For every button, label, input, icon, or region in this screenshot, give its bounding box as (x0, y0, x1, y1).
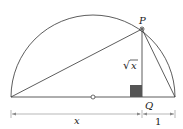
arrowhead-left (12, 113, 16, 116)
geometry-diagram: P Q √ x x 1 (0, 0, 183, 129)
label-sqrt-var: x (131, 60, 137, 71)
label-p: P (138, 15, 146, 26)
arrowhead-one-right (170, 113, 174, 116)
label-segment-one: 1 (155, 116, 161, 127)
label-sqrt-symbol: √ (123, 59, 131, 72)
label-segment-x: x (74, 115, 80, 126)
label-q: Q (145, 100, 153, 111)
arrowhead-x-right (137, 113, 141, 116)
right-angle-marker (130, 85, 142, 97)
chord-p-to-right (142, 29, 175, 97)
semicircle-arc (11, 15, 175, 97)
center-point (91, 95, 95, 99)
point-p-dot (141, 28, 143, 30)
arrowhead-one-left (143, 113, 147, 116)
